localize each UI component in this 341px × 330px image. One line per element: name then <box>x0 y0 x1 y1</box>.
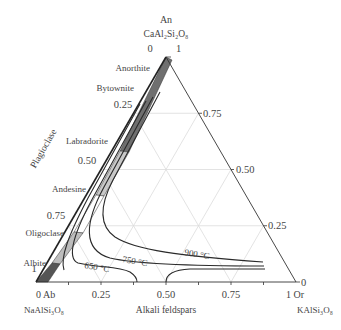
left-tick-025: 0.25 <box>114 99 132 110</box>
bottom-tick-050: 0.50 <box>157 289 175 300</box>
bottom-axis-label: Alkali feldspars <box>136 305 197 315</box>
vertex-ab-formula: NaAlSi₃O₈ <box>24 305 64 315</box>
label-labradorite: Labradorite <box>66 136 108 146</box>
label-albite: Albite <box>24 258 47 268</box>
plagioclase-axis-label: Plagioclase <box>28 127 58 169</box>
right-tick-025: 0.25 <box>268 220 286 231</box>
vertex-ab-label: 0 Ab <box>36 289 55 300</box>
vertex-or-formula: KAlSi₃O₈ <box>297 305 333 315</box>
right-tick-1: 1 <box>176 43 181 54</box>
left-tick-050: 0.50 <box>78 155 96 166</box>
left-tick-0: 0 <box>147 43 152 54</box>
label-bytownite: Bytownite <box>97 83 135 93</box>
label-andesine: Andesine <box>52 184 86 194</box>
isotherm-900 <box>103 92 263 262</box>
isotherms <box>63 92 265 282</box>
isotherm-label-900: 900 °C <box>184 247 211 261</box>
right-tick-050: 0.50 <box>236 164 254 175</box>
right-tick-075: 0.75 <box>203 108 221 119</box>
isotherm-label-750: 750 °C <box>122 254 149 268</box>
label-oligoclase: Oligoclase <box>26 228 65 238</box>
ternary-diagram: An CaAl₂Si₂O₈ 0 Ab NaAlSi₃O₈ 1 Or KAlSi₃… <box>0 0 341 330</box>
left-tick-075: 0.75 <box>47 210 65 221</box>
vertex-an-label: An <box>160 14 172 25</box>
vertex-or-label: 1 Or <box>286 289 305 300</box>
bottom-tick-025: 0.25 <box>92 289 110 300</box>
vertex-an-formula: CaAl₂Si₂O₈ <box>144 29 189 39</box>
right-tick-0: 0 <box>301 277 306 288</box>
isotherm-label-650: 650 °C <box>84 260 111 274</box>
label-anorthite: Anorthite <box>116 63 151 73</box>
isotherm-650-right <box>166 269 265 282</box>
bottom-tick-075: 0.75 <box>222 289 240 300</box>
